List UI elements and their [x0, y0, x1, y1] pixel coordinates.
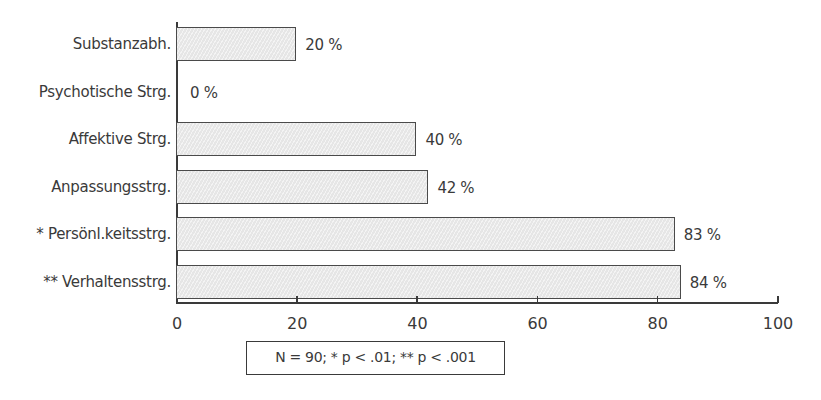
- bar: [176, 217, 675, 251]
- x-tick-label: 20: [287, 314, 307, 334]
- category-label: * Persönl.keitsstrg.: [36, 225, 171, 243]
- x-tick: [777, 296, 779, 303]
- x-tick-label: 0: [172, 314, 182, 334]
- bar: [176, 122, 416, 156]
- value-label: 84 %: [690, 274, 727, 292]
- y-axis: [176, 22, 178, 304]
- footnote-box: N = 90; * p < .01; ** p < .001: [246, 341, 505, 375]
- x-tick: [416, 296, 418, 303]
- value-label: 0 %: [190, 84, 218, 102]
- bar: [176, 27, 296, 61]
- bar-chart: Substanzabh.20 %Psychotische Strg.0 %Aff…: [0, 0, 821, 400]
- category-label: Substanzabh.: [73, 35, 171, 53]
- bar: [176, 170, 428, 204]
- value-label: 83 %: [684, 226, 721, 244]
- value-label: 40 %: [425, 131, 462, 149]
- x-tick-label: 40: [407, 314, 427, 334]
- category-label: ** Verhaltensstrg.: [43, 273, 171, 291]
- category-label: Psychotische Strg.: [39, 83, 171, 101]
- x-axis: [176, 302, 778, 304]
- value-label: 42 %: [437, 179, 474, 197]
- x-tick-label: 100: [763, 314, 794, 334]
- x-tick: [296, 296, 298, 303]
- value-label: 20 %: [305, 36, 342, 54]
- x-tick-label: 80: [648, 314, 668, 334]
- bar: [176, 265, 681, 299]
- x-tick: [537, 296, 539, 303]
- category-label: Anpassungsstrg.: [51, 178, 171, 196]
- x-tick-label: 60: [527, 314, 547, 334]
- x-tick: [657, 296, 659, 303]
- category-label: Affektive Strg.: [69, 130, 171, 148]
